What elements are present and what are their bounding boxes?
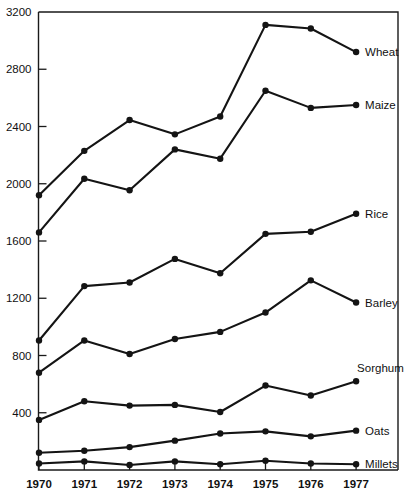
data-point [308,277,314,283]
data-point [172,146,178,152]
chart-canvas: 400800120016002000240028003200 197019711… [0,0,405,498]
data-point [172,458,178,464]
data-point [353,102,359,108]
data-point [126,462,132,468]
series-label-barley: Barley [365,297,398,309]
data-point [126,279,132,285]
data-point [262,428,268,434]
x-tick-label: 1970 [26,478,52,490]
line-chart: 400800120016002000240028003200 197019711… [0,0,405,498]
series-label-rice: Rice [365,208,388,220]
data-point [217,113,223,119]
data-point [308,392,314,398]
data-point [308,433,314,439]
x-tick-label: 1972 [117,478,143,490]
data-point [36,192,42,198]
series-line-maize [39,91,356,233]
x-tick-label: 1977 [343,478,369,490]
x-tick-label: 1974 [207,478,233,490]
data-point [126,351,132,357]
y-tick-label: 1200 [6,292,32,304]
data-point [172,437,178,443]
data-point [126,444,132,450]
series-sorghum [36,378,360,423]
y-tick-label: 2800 [6,63,32,75]
data-point [126,117,132,123]
data-point [81,458,87,464]
x-tick-label: 1975 [253,478,279,490]
series-label-sorghum: Sorghum [357,362,404,374]
data-point [262,231,268,237]
data-point [81,337,87,343]
data-point [217,409,223,415]
series-barley [36,277,360,376]
data-point [262,88,268,94]
data-point [36,460,42,466]
data-point [36,417,42,423]
x-tick-label: 1971 [72,478,98,490]
data-point [217,461,223,467]
data-point [308,229,314,235]
data-series-group [36,22,360,469]
data-point [262,458,268,464]
data-point [308,105,314,111]
x-axis-ticks: 19701971197219731974197519761977 [26,462,369,490]
data-point [217,329,223,335]
y-tick-label: 3200 [6,6,32,18]
data-point [217,270,223,276]
y-axis-ticks: 400800120016002000240028003200 [6,6,47,419]
data-point [81,148,87,154]
data-point [172,402,178,408]
series-label-millets: Millets [365,458,398,470]
data-point [36,369,42,375]
series-label-wheat: Wheat [365,46,399,58]
data-point [217,156,223,162]
data-point [81,176,87,182]
series-label-oats: Oats [365,425,390,437]
y-tick-label: 2000 [6,178,32,190]
x-tick-label: 1973 [162,478,188,490]
series-label-maize: Maize [365,99,396,111]
data-point [217,430,223,436]
data-point [262,382,268,388]
y-tick-label: 800 [12,350,31,362]
data-point [172,336,178,342]
data-point [36,450,42,456]
series-label-group: WheatMaizeRiceBarleySorghumOatsMillets [357,46,404,470]
data-point [81,283,87,289]
data-point [353,461,359,467]
data-point [172,256,178,262]
x-tick-label: 1976 [298,478,324,490]
data-point [262,22,268,28]
data-point [262,309,268,315]
data-point [353,211,359,217]
data-point [81,447,87,453]
series-oats [36,427,360,456]
data-point [308,25,314,31]
data-point [81,398,87,404]
data-point [353,49,359,55]
data-point [172,131,178,137]
data-point [353,299,359,305]
series-line-barley [39,280,356,372]
series-rice [36,211,360,344]
y-tick-label: 1600 [6,235,32,247]
y-tick-label: 2400 [6,121,32,133]
data-point [126,187,132,193]
y-tick-label: 400 [12,407,31,419]
data-point [126,402,132,408]
data-point [353,427,359,433]
data-point [36,229,42,235]
data-point [353,378,359,384]
series-maize [36,88,360,236]
data-point [36,337,42,343]
data-point [308,460,314,466]
